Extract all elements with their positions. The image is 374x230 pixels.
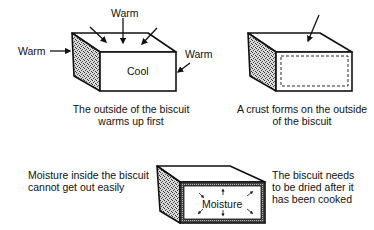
arrow-right-warm — [178, 63, 190, 72]
caption-crust-line1: A crust forms on the outside — [234, 103, 370, 115]
moisture-right-text: The biscuit needs to be dried after it h… — [272, 169, 354, 205]
moisture-right-line3: has been cooked — [272, 193, 354, 205]
biscuit-warming — [50, 18, 190, 91]
caption-warming-line2: warms up first — [68, 115, 194, 127]
caption-warming-line1: The outside of the biscuit — [68, 103, 194, 115]
label-warm-left: Warm — [18, 45, 46, 57]
moisture-right-line1: The biscuit needs — [272, 169, 354, 181]
label-moisture: Moisture — [202, 198, 242, 210]
moisture-left-line1: Moisture inside the biscuit — [28, 169, 149, 181]
label-cool: Cool — [127, 65, 149, 77]
caption-warming: The outside of the biscuit warms up firs… — [68, 103, 194, 127]
moisture-right-line2: to be dried after it — [272, 181, 354, 193]
moisture-left-line2: cannot get out easily — [28, 181, 149, 193]
label-warm-right: Warm — [185, 48, 213, 60]
biscuit-moisture — [157, 166, 265, 223]
biscuit-crust — [248, 15, 352, 91]
caption-crust: A crust forms on the outside of the bisc… — [234, 103, 370, 127]
caption-crust-line2: of the biscuit — [234, 115, 370, 127]
moisture-left-text: Moisture inside the biscuit cannot get o… — [28, 169, 149, 193]
label-warm-top: Warm — [111, 7, 139, 19]
